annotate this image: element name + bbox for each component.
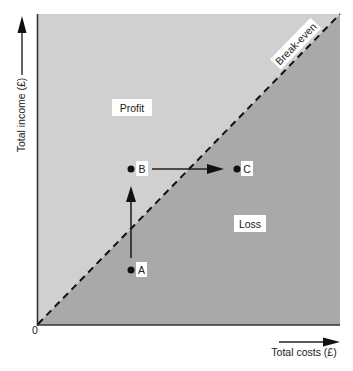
svg-text:C: C	[243, 163, 251, 175]
break-even-diagram: Break-even Profit Loss A B C 0	[0, 0, 353, 371]
svg-text:A: A	[138, 264, 145, 276]
y-axis-label: Total income (£)	[15, 78, 27, 153]
profit-label: Profit	[112, 99, 152, 116]
origin-label: 0	[32, 324, 38, 336]
x-axis-label: Total costs (£)	[271, 346, 336, 358]
svg-text:Loss: Loss	[239, 218, 261, 230]
svg-text:B: B	[138, 163, 145, 175]
loss-label: Loss	[234, 215, 266, 232]
y-axis-arrow	[18, 16, 27, 75]
svg-text:Profit: Profit	[120, 102, 145, 114]
